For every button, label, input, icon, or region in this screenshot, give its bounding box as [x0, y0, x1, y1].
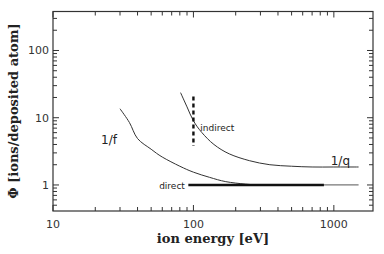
y-tick-label: 100: [28, 44, 49, 57]
y-tick-label: 10: [35, 112, 49, 125]
annotation-indirect: indirect: [200, 123, 234, 133]
annotation-1-f: 1/f: [101, 133, 118, 147]
ticks: [53, 12, 373, 212]
series-1-f: [120, 109, 278, 185]
annotation-direct: direct: [159, 181, 185, 191]
plot-frame: [53, 12, 373, 212]
series-group: [120, 93, 359, 185]
chart: 101001000110100 1/findirect1/qdirect ion…: [0, 0, 384, 254]
x-axis-label: ion energy [eV]: [157, 231, 269, 246]
x-tick-label: 10: [46, 218, 60, 231]
x-tick-label: 100: [183, 218, 204, 231]
x-tick-label: 1000: [320, 218, 348, 231]
y-axis-label: Φ [ions/deposited atom]: [6, 23, 21, 198]
annotation-1-q: 1/q: [331, 154, 350, 168]
tick-labels: 101001000110100: [28, 44, 348, 231]
annotations: 1/findirect1/qdirect: [101, 123, 350, 191]
y-tick-label: 1: [42, 179, 49, 192]
